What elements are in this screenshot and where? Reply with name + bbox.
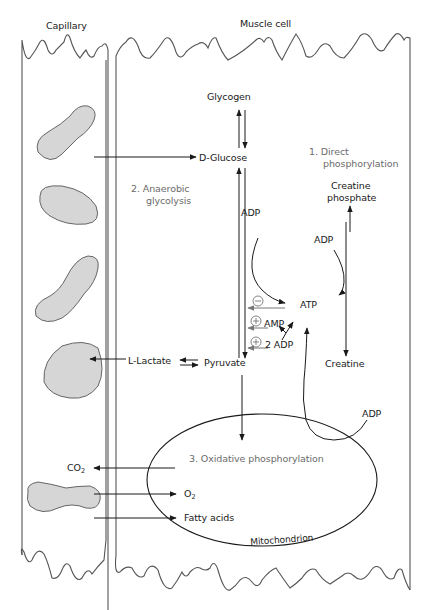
co2-main: CO [67,462,81,473]
creatine-phosphate-label-1: Creatine [331,180,370,191]
glycogen-label: Glycogen [207,91,251,102]
oxidative-phosphorylation-label: 3. Oxidative phosphorylation [189,453,324,464]
regulation-circles [251,296,263,347]
pathway-number: 1. [309,146,318,157]
adp-glycolysis-label: ADP [241,207,260,218]
creatine-label: Creatine [325,358,364,369]
pathway-number: 3. [189,453,198,464]
creatine-phosphate-label-2: phosphate [327,192,376,203]
anaerobic-glycolysis-label-2: glycolysis [146,195,191,206]
adp-creatine-label: ADP [314,234,333,245]
atp-label: ATP [300,299,317,310]
two-adp-label: 2 ADP [265,339,293,350]
energy-metabolism-diagram: Capillary Muscle cell Glycogen D-Glucose… [0,0,428,610]
co2-subscript: 2 [81,467,85,475]
glucose-label: D-Glucose [199,152,247,163]
co2-label: CO2 [67,462,85,477]
o2-label: O2 [184,488,195,503]
capillary-label: Capillary [46,20,87,31]
fatty-acids-label: Fatty acids [184,512,234,523]
direct-phosphorylation-label: 1. Direct [309,146,349,157]
adp-mito-label: ADP [362,408,381,419]
o2-subscript: 2 [191,493,195,501]
mitochondrion-outline [147,414,377,546]
anaerobic-glycolysis-label: 2. Anaerobic [131,183,190,194]
pyruvate-label: Pyruvate [204,357,246,368]
pathway-line1: Oxidative phosphorylation [201,453,324,464]
pathway-number: 2. [131,183,140,194]
pathway-line1: Anaerobic [143,183,190,194]
muscle-cell-membrane [116,34,411,591]
direct-phosphorylation-label-2: phosphorylation [323,158,398,169]
pathway-line1: Direct [321,146,349,157]
muscle-cell-label: Muscle cell [240,18,291,29]
lactate-label: L-Lactate [128,355,171,366]
amp-label: AMP [264,318,284,329]
red-blood-cells [27,106,102,512]
